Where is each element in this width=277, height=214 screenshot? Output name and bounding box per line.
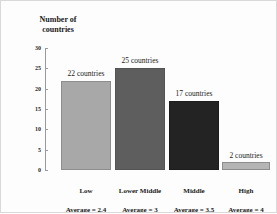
y-tick-label: 25: [25, 65, 41, 71]
bar-value-label-high: 2 countries: [217, 151, 275, 160]
y-tick-mark: [45, 89, 48, 90]
y-tick-label: 30: [25, 45, 41, 51]
category-name-low: Low: [79, 187, 92, 195]
bar-value-label-low: 22 countries: [56, 69, 116, 78]
category-label-middle: Middle Average = 3.5: [163, 177, 225, 213]
category-average-high: Average = 4: [228, 206, 263, 214]
plot-area: 30 25 20 15 10 5 0 22 countries 25 count…: [1, 1, 277, 213]
y-tick-mark: [45, 129, 48, 130]
y-tick-mark: [45, 68, 48, 69]
bar-middle[interactable]: [169, 101, 219, 170]
y-tick-label: 20: [25, 86, 41, 92]
y-tick-mark: [45, 150, 48, 151]
bar-lower-middle[interactable]: [115, 68, 165, 170]
y-tick-mark: [45, 48, 48, 49]
bar-value-label-lower-middle: 25 countries: [110, 56, 170, 65]
category-average-middle: Average = 3.5: [174, 206, 215, 214]
bar-chart-figure: Number of countries 30 25 20 15 10 5 0 2…: [0, 0, 277, 213]
category-name-high: High: [239, 187, 254, 195]
y-tick-label: 5: [25, 147, 41, 153]
category-label-high: High Average = 4: [217, 177, 275, 213]
y-tick-label: 0: [25, 167, 41, 173]
y-tick-label: 15: [25, 106, 41, 112]
bar-value-label-middle: 17 countries: [164, 89, 224, 98]
y-tick-mark: [45, 170, 48, 171]
category-average-lower-middle: Average = 3: [122, 206, 157, 214]
y-tick-mark: [45, 109, 48, 110]
category-name-lower-middle: Lower Middle: [119, 187, 161, 195]
category-average-low: Average = 2.4: [66, 206, 107, 214]
bar-low[interactable]: [61, 81, 111, 170]
category-name-middle: Middle: [183, 187, 204, 195]
category-label-low: Low Average = 2.4: [56, 177, 116, 213]
bar-high[interactable]: [222, 162, 270, 170]
y-tick-label: 10: [25, 126, 41, 132]
